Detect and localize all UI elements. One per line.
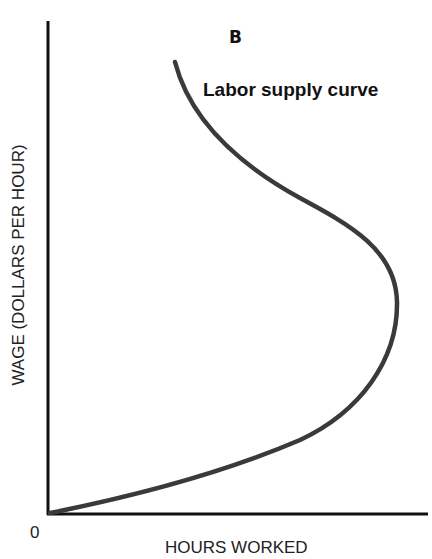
labor-supply-chart: B Labor supply curve 0 HOURS WORKED WAGE… xyxy=(0,0,432,559)
labor-supply-curve xyxy=(50,62,397,513)
x-axis-label: HOURS WORKED xyxy=(165,538,308,557)
panel-label: B xyxy=(229,27,242,47)
curve-label: Labor supply curve xyxy=(203,79,378,100)
y-axis-label: WAGE (DOLLARS PER HOUR) xyxy=(9,144,28,385)
origin-label: 0 xyxy=(30,523,39,542)
